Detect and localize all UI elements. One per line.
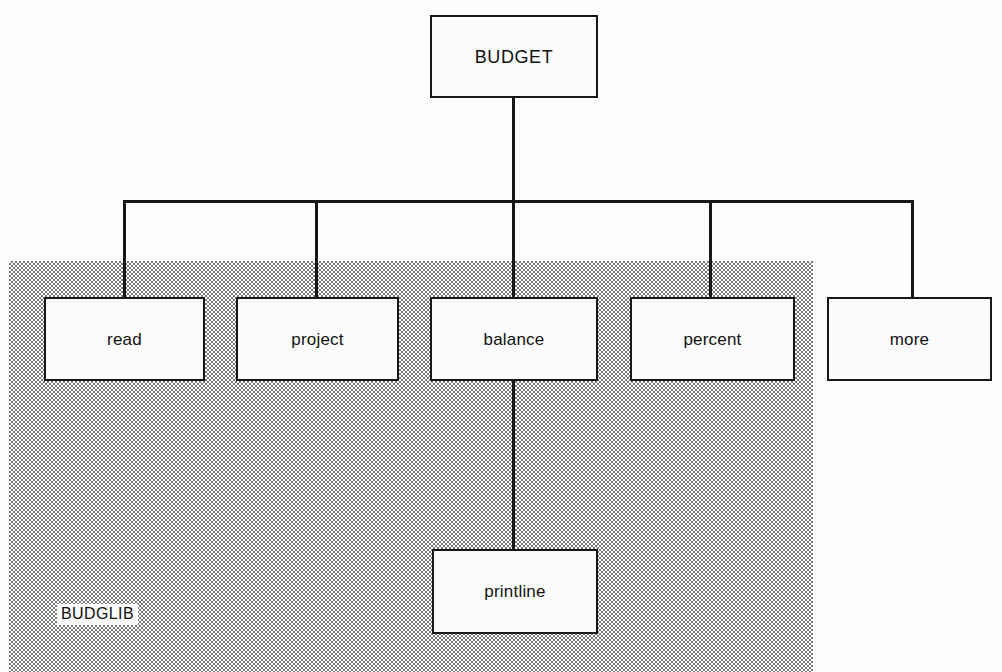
node-balance[interactable]: balance (430, 297, 598, 381)
node-more-label: more (890, 331, 930, 348)
node-percent[interactable]: percent (630, 297, 795, 381)
node-printline[interactable]: printline (432, 549, 598, 634)
connector-balance-to-printline (512, 379, 515, 551)
node-read-label: read (107, 331, 142, 348)
connector-drop-balance (512, 200, 515, 298)
node-more[interactable]: more (827, 297, 992, 381)
node-read[interactable]: read (44, 297, 205, 381)
connector-drop-percent (709, 200, 712, 298)
connector-budget-stem (512, 96, 515, 202)
connector-drop-read (123, 200, 126, 298)
connector-drop-more (911, 200, 914, 298)
connector-drop-project (315, 200, 318, 298)
connector-horizontal-bus (123, 200, 914, 203)
budglib-region-label: BUDGLIB (57, 604, 138, 625)
node-project[interactable]: project (236, 297, 399, 381)
structure-chart-canvas: BUDGET read project balance percent more… (0, 0, 1002, 672)
node-printline-label: printline (484, 583, 545, 600)
node-budget[interactable]: BUDGET (430, 15, 598, 98)
node-balance-label: balance (484, 331, 545, 348)
node-budget-label: BUDGET (475, 48, 554, 66)
node-project-label: project (291, 331, 343, 348)
node-percent-label: percent (683, 331, 741, 348)
